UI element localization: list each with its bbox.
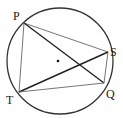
label-s: S <box>110 45 117 59</box>
segment-ps <box>24 23 108 52</box>
segment-pt <box>19 23 24 92</box>
label-q: Q <box>106 87 115 101</box>
label-p: P <box>13 9 20 23</box>
circle <box>7 8 113 114</box>
circle-diagram: P S Q T <box>0 0 123 118</box>
segment-tq <box>19 83 104 92</box>
center-dot <box>57 60 60 63</box>
label-t: T <box>6 93 14 107</box>
segment-ts <box>19 52 108 92</box>
segment-pq <box>24 23 104 83</box>
segment-sq <box>104 52 108 83</box>
